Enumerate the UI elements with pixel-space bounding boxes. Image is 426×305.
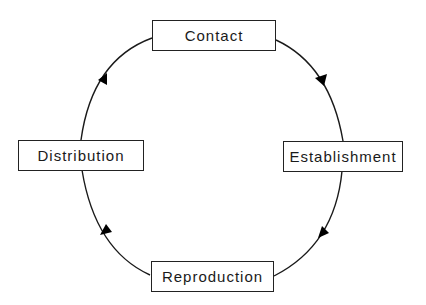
arrow-establishment-to-reproduction <box>274 171 342 276</box>
arrowhead-icon <box>318 226 329 238</box>
arrowhead-icon <box>315 74 327 86</box>
node-label: Contact <box>185 27 244 44</box>
node-contact: Contact <box>152 20 276 51</box>
arrow-reproduction-to-distribution <box>82 170 150 275</box>
node-reproduction: Reproduction <box>151 261 274 292</box>
node-establishment: Establishment <box>283 141 403 172</box>
arrow-contact-to-establishment <box>276 40 343 141</box>
node-label: Distribution <box>37 147 124 164</box>
node-label: Establishment <box>289 148 396 165</box>
node-label: Reproduction <box>162 268 263 285</box>
arrow-distribution-to-contact <box>81 38 152 140</box>
node-distribution: Distribution <box>18 140 144 171</box>
